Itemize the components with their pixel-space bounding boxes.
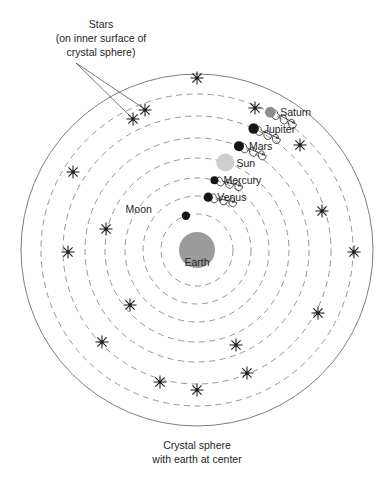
caption-line1: Crystal sphere	[163, 439, 231, 451]
label-moon: Moon	[126, 203, 152, 215]
star-icon	[67, 166, 80, 179]
star-icon	[154, 376, 167, 389]
body-mars	[234, 141, 244, 151]
crystal-sphere-caption: Crystal sphere with earth at center	[151, 439, 242, 465]
label-saturn: Saturn	[280, 106, 311, 118]
star-icon	[241, 367, 254, 380]
star-icon	[312, 307, 325, 320]
star-icon	[124, 299, 137, 312]
stars-label-line3: crystal sphere)	[67, 46, 136, 58]
star-icon	[191, 384, 204, 397]
stars-label-line2: (on inner surface of	[56, 32, 147, 44]
body-sun	[216, 154, 234, 172]
star-icon	[62, 246, 75, 259]
star-icon	[191, 72, 204, 85]
label-venus: Venus	[217, 191, 246, 203]
label-mars: Mars	[249, 140, 272, 152]
star-icon	[139, 104, 152, 117]
body-venus	[204, 193, 213, 202]
label-mercury: Mercury	[223, 174, 262, 186]
star-icon	[249, 102, 262, 115]
body-jupiter	[248, 123, 258, 133]
stars-leader-lines-group	[76, 63, 143, 117]
stars-leader-line	[76, 63, 143, 108]
label-earth: Earth	[184, 256, 209, 268]
star-icon	[230, 339, 243, 352]
star-icon	[348, 246, 361, 259]
label-jupiter: Jupiter	[264, 123, 296, 135]
caption-line2: with earth at center	[151, 453, 242, 465]
body-saturn	[265, 107, 276, 118]
body-labels-group: MoonVenusMercurySunMarsJupiterSaturnEart…	[126, 106, 312, 268]
cosmos-svg: MoonVenusMercurySunMarsJupiterSaturnEart…	[0, 0, 390, 483]
geocentric-diagram: MoonVenusMercurySunMarsJupiterSaturnEart…	[0, 0, 390, 483]
body-moon	[182, 212, 190, 220]
label-sun: Sun	[236, 157, 255, 169]
body-mercury	[210, 176, 218, 184]
stars-label-line1: Stars	[89, 18, 114, 30]
star-icon	[316, 205, 329, 218]
star-icon	[294, 139, 307, 152]
stars-annotation-label: Stars (on inner surface of crystal spher…	[56, 18, 147, 58]
star-icon	[100, 223, 113, 236]
star-icon	[96, 336, 109, 349]
